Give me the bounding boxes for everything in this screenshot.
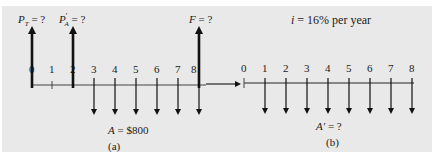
- panel-b-period-label: 4: [325, 62, 331, 74]
- panel-a-upward-label: P′A = ?: [58, 12, 85, 28]
- panel-a-diagram: A = $800 (a) 012345678PT = ?P′A = ?F = ?: [17, 12, 212, 153]
- panel-b-period-label: 0: [241, 62, 247, 74]
- panel-a-period-label: 6: [154, 63, 160, 75]
- panel-a-downward-label: A = $800: [107, 124, 149, 136]
- cash-flow-diagrams: i = 16% per year A = $800 (a) 012345678P…: [0, 0, 432, 158]
- panel-a-caption: (a): [108, 140, 121, 153]
- panel-b-period-label: 1: [262, 62, 268, 74]
- panel-b-period-label: 2: [283, 62, 289, 74]
- panel-b-caption: (b): [326, 136, 339, 149]
- panel-b-downward-label: A′ = ?: [315, 120, 342, 132]
- panel-a-upward-label: F = ?: [188, 13, 212, 25]
- panel-b-diagram: A′ = ? (b) 012345678: [241, 62, 415, 149]
- panel-b-period-label: 5: [346, 62, 352, 74]
- cash-flow-diagram-figure: i = 16% per year A = $800 (a) 012345678P…: [0, 0, 432, 158]
- panel-a-period-label: 7: [175, 63, 181, 75]
- panel-a-period-label: 1: [49, 63, 55, 75]
- panel-a-period-label: 5: [133, 63, 139, 75]
- panel-a-period-label: 4: [112, 63, 118, 75]
- panel-b-period-label: 8: [409, 62, 415, 74]
- panel-b-period-label: 3: [304, 62, 310, 74]
- interest-rate-label: i = 16% per year: [291, 13, 371, 27]
- panel-b-period-label: 6: [367, 62, 373, 74]
- panel-a-period-label: 3: [91, 63, 97, 75]
- panel-b-period-label: 7: [388, 62, 394, 74]
- panel-a-period-label: 8: [191, 63, 197, 75]
- panel-a-upward-label: PT = ?: [17, 13, 45, 28]
